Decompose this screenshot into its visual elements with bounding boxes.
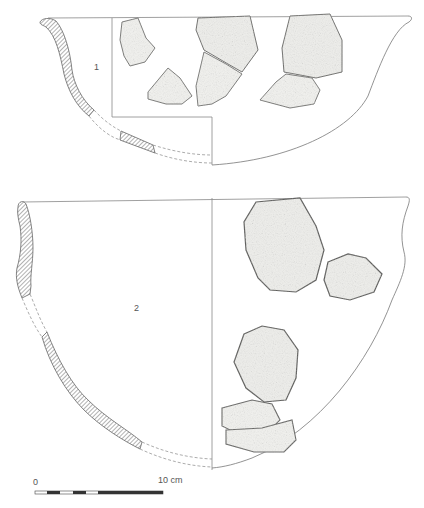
scale-start-label: 0 (33, 478, 38, 487)
scale-bar (35, 491, 163, 494)
sherd (324, 254, 382, 300)
vessel-2-sherds (222, 198, 382, 452)
vessel-1 (40, 14, 412, 165)
vessel-2-lower-section (42, 332, 142, 449)
sherd (234, 326, 298, 402)
sherd (282, 14, 342, 78)
vessel-2-label: 2 (134, 304, 139, 313)
scale-end-label: 10 cm (158, 476, 183, 485)
vessel-2-rim-line (22, 197, 406, 202)
sherd (148, 68, 192, 104)
vessel-1-dashed-outer (89, 116, 212, 163)
sherd (120, 18, 155, 66)
vessel-1-lower-section (120, 131, 155, 153)
vessel-1-sherds (120, 14, 342, 108)
sherd (244, 198, 324, 292)
vessel-1-rim-section (40, 18, 94, 116)
vessel-2 (16, 197, 409, 470)
sherd (260, 74, 320, 108)
vessel-1-label: 1 (94, 63, 99, 72)
vessel-2-dashed-outer (22, 298, 212, 467)
drawing-canvas (0, 0, 424, 508)
vessel-2-rim-section (16, 202, 33, 298)
